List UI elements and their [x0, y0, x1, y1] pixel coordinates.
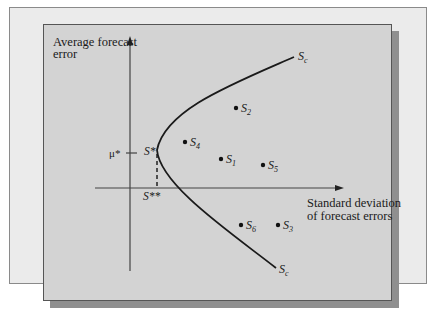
point-marker-icon — [261, 163, 265, 167]
point-marker-icon — [183, 140, 187, 144]
point-s5: S5 — [261, 158, 278, 174]
point-s1: S1 — [219, 152, 236, 168]
forecast-error-diagram: Average forecast error Standard deviatio… — [0, 0, 439, 316]
point-s4: S4 — [183, 135, 200, 151]
point-marker-icon — [276, 223, 280, 227]
mu-star-label: μ* — [109, 147, 120, 159]
svg-text:S2: S2 — [241, 101, 251, 117]
svg-text:S6: S6 — [246, 218, 256, 234]
point-s6: S6 — [239, 218, 256, 234]
point-marker-icon — [219, 157, 223, 161]
svg-text:S1: S1 — [226, 152, 236, 168]
svg-text:S5: S5 — [268, 158, 278, 174]
y-axis-label-line2: error — [53, 47, 78, 61]
x-axis — [95, 185, 344, 191]
point-s2: S2 — [234, 101, 251, 117]
x-axis-label-line2: of forecast errors — [307, 209, 393, 223]
x-axis-arrow-icon — [335, 185, 344, 191]
point-marker-icon — [239, 223, 243, 227]
point-marker-icon — [234, 106, 238, 110]
curve-top-label: Sc — [298, 49, 308, 65]
svg-text:S4: S4 — [190, 135, 200, 151]
curve-bottom-label: Sc — [279, 262, 289, 278]
s-star-label: S* — [144, 145, 156, 157]
svg-text:S3: S3 — [283, 218, 293, 234]
point-s3: S3 — [276, 218, 293, 234]
x-axis-label-line1: Standard deviation — [307, 196, 402, 210]
s-double-star-label: S** — [143, 190, 161, 202]
